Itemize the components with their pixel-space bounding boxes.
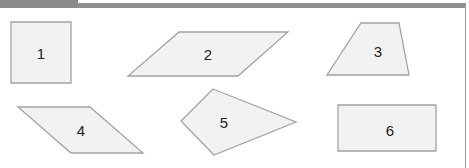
trapezoid-shape <box>327 23 409 75</box>
shape-4: 4 <box>18 107 143 153</box>
shape-label: 3 <box>374 43 382 60</box>
shape-label: 5 <box>220 114 228 131</box>
shape-label: 4 <box>77 122 85 139</box>
shape-2: 2 <box>128 32 288 76</box>
shape-5: 5 <box>181 89 296 155</box>
shape-label: 2 <box>204 46 212 63</box>
kite-shape <box>181 89 296 155</box>
shape-label: 1 <box>37 45 45 62</box>
shape-label: 6 <box>386 122 394 139</box>
shape-1: 1 <box>11 22 71 83</box>
shape-3: 3 <box>327 23 409 75</box>
shapes-canvas: 1 2 3 4 5 6 <box>0 0 469 168</box>
shape-6: 6 <box>338 105 436 151</box>
